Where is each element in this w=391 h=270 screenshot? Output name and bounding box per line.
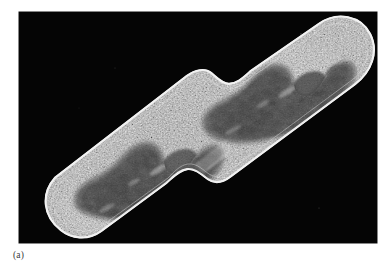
figure-caption-label: (a) [13, 250, 24, 261]
micrograph-image [19, 12, 377, 243]
figure-root: (a) [0, 0, 391, 270]
micrograph-plate [19, 12, 377, 243]
